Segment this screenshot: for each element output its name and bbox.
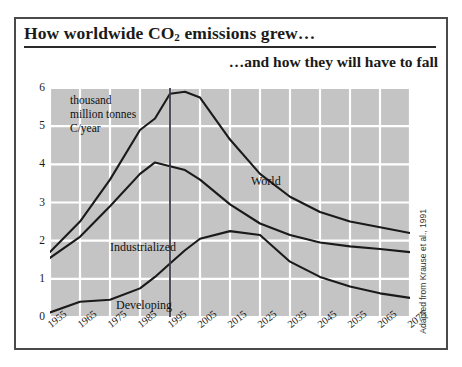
y-axis-tick-label: 6	[39, 82, 45, 94]
main-title-suffix: emissions grew…	[180, 23, 315, 43]
series-label-industrialized: Industrialized	[110, 241, 176, 253]
chart-plot-area: 0123456195519651975198519952005201520252…	[50, 88, 410, 317]
y-axis-tick-label: 3	[39, 197, 45, 209]
title-divider	[24, 46, 436, 48]
y-axis-tick-label: 1	[39, 273, 45, 285]
main-title-subscript: 2	[174, 31, 180, 43]
page-title: How worldwide CO2 emissions grew…	[24, 23, 440, 43]
y-axis-tick-label: 4	[39, 159, 45, 171]
series-label-world: World	[251, 175, 281, 187]
y-axis-unit-note: thousand million tonnes C/year	[70, 93, 136, 135]
series-label-developing: Developing	[116, 299, 172, 311]
y-axis-tick-label: 0	[39, 311, 45, 323]
figure-subtitle: …and how they will have to fall	[24, 53, 440, 71]
title-block: How worldwide CO2 emissions grew… …and h…	[24, 23, 440, 71]
figure-frame: How worldwide CO2 emissions grew… …and h…	[14, 17, 448, 350]
y-axis-tick-label: 5	[39, 120, 45, 132]
y-axis-tick-label: 2	[39, 235, 45, 247]
source-credit: Adapted from Krause et al., 1991	[418, 209, 428, 334]
main-title-prefix: How worldwide CO	[24, 23, 174, 43]
